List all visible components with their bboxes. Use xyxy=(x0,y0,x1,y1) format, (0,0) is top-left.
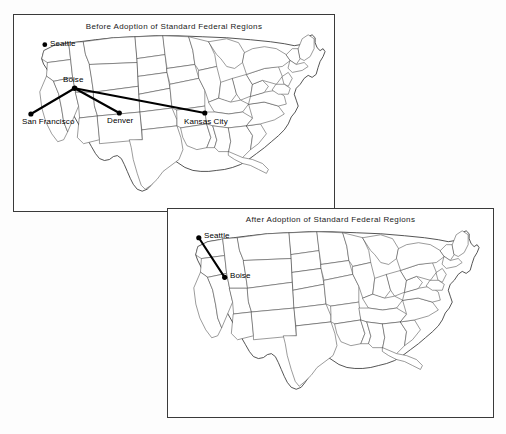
city-label-boise: Boise xyxy=(230,271,251,280)
panel-after-adoption: After Adoption of Standard Federal Regio… xyxy=(167,208,494,418)
city-label-boise: Boise xyxy=(63,75,84,84)
city-dot-boise xyxy=(72,85,78,91)
city-label-kansas-city: Kansas City xyxy=(184,117,228,126)
us-map-after xyxy=(168,209,493,417)
city-label-san-francisco: San Francisco xyxy=(22,117,74,126)
city-dot-boise xyxy=(222,275,227,280)
city-dot-san-francisco xyxy=(28,111,33,116)
city-label-denver: Denver xyxy=(107,116,133,125)
city-dot-seattle xyxy=(196,235,201,240)
city-dot-denver xyxy=(117,110,122,115)
panel-before-adoption: Before Adoption of Standard Federal Regi… xyxy=(13,14,335,212)
city-label-seattle: Seattle xyxy=(204,231,230,240)
city-dot-seattle xyxy=(42,42,47,47)
city-label-seattle: Seattle xyxy=(50,39,76,48)
city-dot-kansas-city xyxy=(202,110,207,115)
state-boundaries-before xyxy=(40,35,325,191)
state-boundaries-after xyxy=(194,231,479,389)
